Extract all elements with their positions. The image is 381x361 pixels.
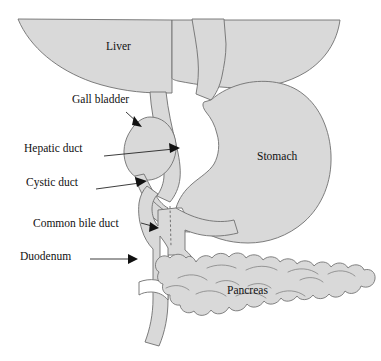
- organ-label-pancreas: Pancreas: [227, 285, 268, 297]
- liver-shape: [18, 19, 172, 93]
- leader-cystic-duct: [96, 183, 140, 189]
- organ-label-liver: Liver: [106, 41, 131, 53]
- callout-label-gall-bladder: Gall bladder: [72, 94, 129, 106]
- anatomy-diagram: Liver Stomach Pancreas Gall bladder Hepa…: [0, 0, 381, 361]
- callout-label-duodenum: Duodenum: [20, 251, 71, 263]
- callout-label-hepatic-duct: Hepatic duct: [24, 143, 82, 155]
- organ-label-stomach: Stomach: [257, 151, 297, 163]
- arrowhead-duodenum: [128, 254, 138, 264]
- callout-label-common-bile-duct: Common bile duct: [33, 218, 119, 230]
- callout-label-cystic-duct: Cystic duct: [26, 177, 78, 189]
